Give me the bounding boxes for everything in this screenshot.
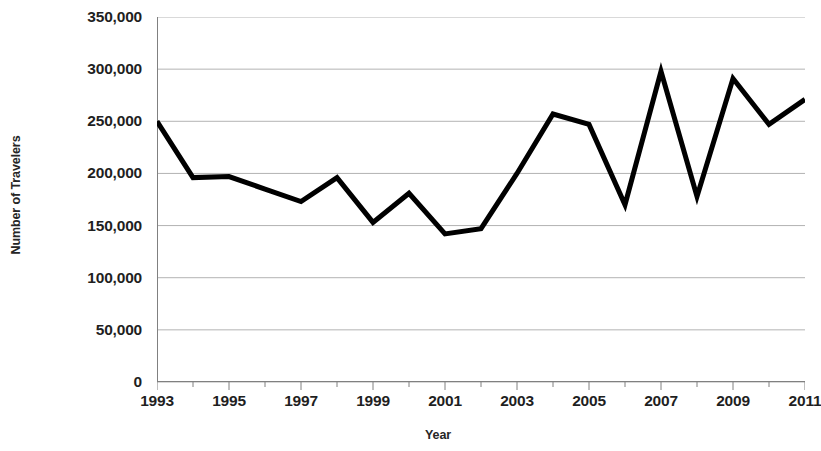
x-axis-title-text: Year — [425, 428, 451, 442]
x-tick-label: 2011 — [789, 392, 821, 410]
y-tick-label: 300,000 — [87, 60, 142, 78]
x-tick-label: 2005 — [572, 392, 606, 410]
y-tick-label: 350,000 — [87, 8, 142, 26]
y-axis-tick-labels: 050,000100,000150,000200,000250,000300,0… — [34, 0, 150, 390]
x-tick-label: 1999 — [356, 392, 390, 410]
gridlines — [157, 17, 805, 382]
y-tick-label: 200,000 — [87, 164, 142, 182]
y-tick-label: 100,000 — [87, 269, 142, 287]
plot-svg — [157, 17, 805, 392]
y-axis-title: Number of Travelers — [0, 0, 32, 390]
x-tick-label: 1997 — [284, 392, 318, 410]
plot-area — [157, 17, 805, 382]
x-tick-label: 2009 — [716, 392, 750, 410]
data-series-line — [157, 71, 805, 234]
x-axis-tick-labels: 1993199519971999200120032005200720092011 — [157, 392, 817, 418]
x-tick-label: 2001 — [428, 392, 462, 410]
x-axis-title: Year — [0, 428, 818, 442]
y-axis-title-text: Number of Travelers — [9, 136, 23, 255]
x-tick-label: 2003 — [500, 392, 534, 410]
y-tick-label: 50,000 — [96, 321, 142, 339]
x-tick-label: 2007 — [644, 392, 678, 410]
x-tick-label: 1993 — [140, 392, 174, 410]
axis-lines — [157, 17, 805, 382]
y-tick-label: 0 — [134, 373, 142, 391]
x-tick-label: 1995 — [212, 392, 246, 410]
y-tick-label: 150,000 — [87, 217, 142, 235]
y-tick-label: 250,000 — [87, 112, 142, 130]
x-axis-ticks — [157, 382, 805, 390]
